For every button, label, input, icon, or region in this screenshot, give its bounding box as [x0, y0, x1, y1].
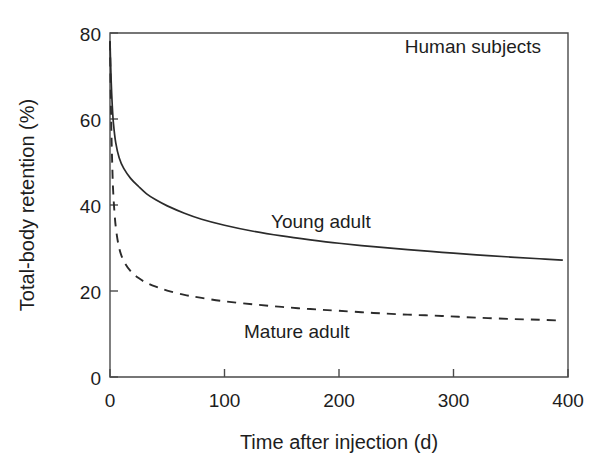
y-tick-label-80: 80	[80, 24, 101, 45]
y-tick-label-0: 0	[90, 368, 101, 389]
y-tick-label-20: 20	[80, 282, 101, 303]
y-tick-label-40: 40	[80, 196, 101, 217]
x-tick-label-200: 200	[323, 390, 355, 411]
retention-chart: 80 60 40 20 0 0 100 200 300 400 Time aft…	[0, 0, 608, 471]
y-axis-title: Total-body retention (%)	[16, 99, 38, 311]
figure-container: 80 60 40 20 0 0 100 200 300 400 Time aft…	[0, 0, 608, 471]
x-axis-ticks	[110, 369, 568, 377]
series-label-young-adult: Young adult	[271, 211, 371, 232]
x-tick-label-400: 400	[552, 390, 584, 411]
x-tick-label-0: 0	[105, 390, 116, 411]
x-axis-title: Time after injection (d)	[240, 431, 438, 453]
x-tick-label-300: 300	[438, 390, 470, 411]
chart-annotation: Human subjects	[405, 36, 541, 57]
series-label-mature-adult: Mature adult	[244, 321, 350, 342]
series-line-mature-adult	[110, 42, 562, 321]
x-tick-label-100: 100	[209, 390, 241, 411]
y-tick-label-60: 60	[80, 110, 101, 131]
